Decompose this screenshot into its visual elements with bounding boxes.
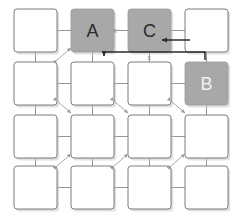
node-box (185, 166, 228, 209)
x-below-c: x (147, 54, 151, 61)
node-r3c2[interactable] (128, 166, 171, 209)
node-box (128, 166, 171, 209)
diagram-canvas: ACB xx (0, 0, 237, 218)
node-r3c1[interactable] (71, 166, 114, 209)
node-label-c: C (143, 21, 156, 41)
x-between-a-and-c: x (113, 27, 117, 34)
node-r1c3-b[interactable]: B (185, 62, 228, 105)
node-r0c1-a[interactable]: A (71, 9, 114, 52)
node-box (128, 62, 171, 105)
node-r2c1[interactable] (71, 115, 114, 158)
node-r1c2[interactable] (128, 62, 171, 105)
node-r3c0[interactable] (14, 166, 57, 209)
diagram-svg: ACB xx (0, 0, 237, 218)
node-box (71, 166, 114, 209)
node-r3c3[interactable] (185, 166, 228, 209)
node-box (14, 9, 57, 52)
node-label-b: B (200, 74, 212, 94)
node-r1c1[interactable] (71, 62, 114, 105)
diag-r1r2-c0c1-icon (57, 101, 71, 113)
node-r2c0[interactable] (14, 115, 57, 158)
node-boxes: ACB (14, 9, 228, 209)
node-box (14, 166, 57, 209)
node-r0c2-c[interactable]: C (128, 9, 171, 52)
node-box (14, 62, 57, 105)
diag-r1r2-c2c3-icon (171, 101, 185, 113)
node-box (71, 115, 114, 158)
node-r2c3[interactable] (185, 115, 228, 158)
node-r0c3[interactable] (185, 9, 228, 52)
diag-r1r2-c1c2-icon (114, 101, 128, 113)
node-box (185, 9, 228, 52)
node-label-a: A (86, 21, 98, 41)
node-r2c2[interactable] (128, 115, 171, 158)
node-r1c0[interactable] (14, 62, 57, 105)
node-box (71, 62, 114, 105)
node-r0c0[interactable] (14, 9, 57, 52)
node-box (128, 115, 171, 158)
node-box (14, 115, 57, 158)
node-box (185, 115, 228, 158)
